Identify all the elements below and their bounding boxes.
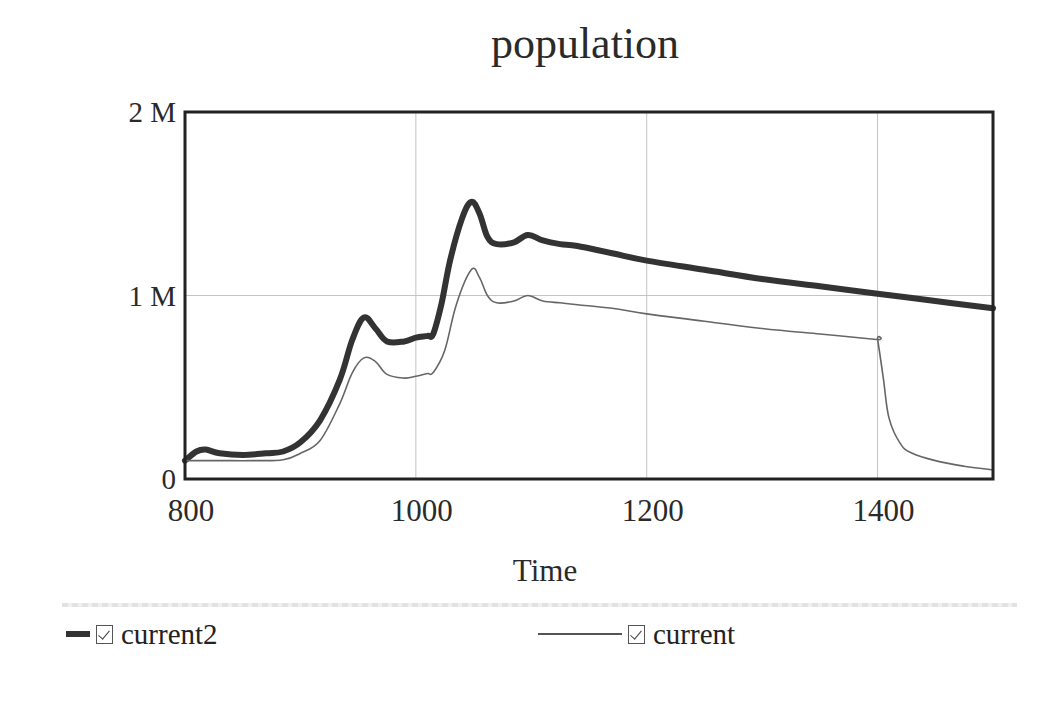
thin-line-swatch-icon [538, 633, 622, 635]
x-tick-label: 1000 [391, 493, 453, 528]
checkbox-checked-icon[interactable] [96, 625, 113, 644]
series-line-current2 [185, 202, 993, 461]
checkbox-checked-icon[interactable] [628, 625, 645, 644]
legend-label: current2 [121, 618, 218, 651]
y-tick-label: 2 M [128, 96, 176, 128]
thick-line-swatch-icon [66, 631, 90, 637]
x-tick-label: 1400 [853, 493, 915, 528]
y-tick-label: 0 [162, 463, 177, 495]
legend-separator [62, 603, 1017, 607]
plot-area: 01 M2 M 800100012001400 Time [0, 0, 1055, 600]
chart-container: population 01 M2 M 800100012001400 Time … [0, 0, 1055, 708]
x-tick-label: 800 [168, 493, 215, 528]
x-axis-label: Time [513, 553, 577, 588]
x-axis-ticks: 800100012001400 [168, 493, 915, 528]
legend-item-current[interactable]: current [538, 614, 735, 654]
legend-item-current2[interactable]: current2 [66, 614, 218, 654]
x-tick-label: 1200 [622, 493, 684, 528]
y-axis-ticks: 01 M2 M [128, 96, 176, 495]
legend-label: current [653, 618, 735, 651]
y-tick-label: 1 M [128, 280, 176, 312]
series-lines [185, 202, 993, 470]
legend: current2 current [0, 614, 1055, 654]
